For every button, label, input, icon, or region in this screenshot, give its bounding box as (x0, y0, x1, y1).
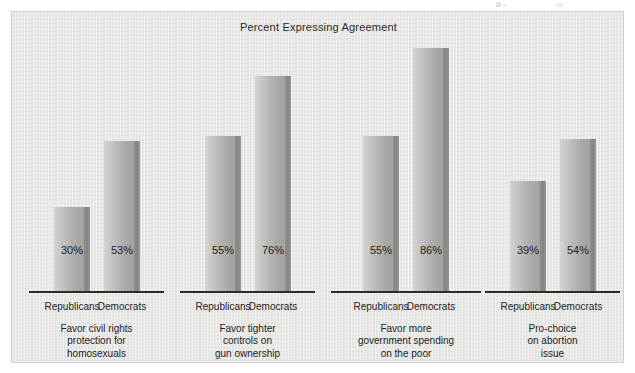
group-caption-line: homosexuals (29, 348, 164, 361)
bar-shadow-edge (285, 76, 291, 292)
group-caption: Favor tightercontrols ongun ownership (180, 323, 315, 361)
bar-group: 55%Republicans86%DemocratsFavor moregove… (331, 12, 481, 364)
bar[interactable] (560, 139, 596, 292)
group-caption-line: on abortion (485, 335, 620, 348)
bar-shadow-edge (235, 136, 241, 292)
scan-artifact (503, 4, 506, 7)
bar-shadow-edge (134, 141, 140, 292)
bar-shadow-edge (540, 181, 546, 292)
bar-shadow-edge (590, 139, 596, 292)
bar-face (54, 207, 84, 292)
bar-face (205, 136, 235, 292)
bar[interactable] (413, 48, 449, 292)
bar[interactable] (510, 181, 546, 292)
x-axis-line (331, 291, 481, 293)
bar-shadow-edge (84, 207, 90, 292)
group-caption: Favor civil rightsprotection forhomosexu… (29, 323, 164, 361)
x-axis-tick-label: Democrats (399, 301, 463, 312)
bar-face (560, 139, 590, 292)
bar[interactable] (363, 136, 399, 292)
bar[interactable] (104, 141, 140, 292)
bar-group: 30%Republicans53%DemocratsFavor civil ri… (29, 12, 164, 364)
bar-group: 55%Republicans76%DemocratsFavor tighterc… (180, 12, 315, 364)
x-axis-line (180, 291, 315, 293)
x-axis-line (29, 291, 164, 293)
x-axis-tick-label: Democrats (241, 301, 305, 312)
chart-title: Percent Expressing Agreement (12, 21, 625, 33)
group-caption-line: Favor civil rights (29, 323, 164, 336)
bar-group: 39%Republicans54%DemocratsPro-choiceon a… (485, 12, 620, 364)
group-caption-line: Favor tighter (180, 323, 315, 336)
group-caption: Favor moregovernment spendingon the poor (331, 323, 481, 361)
bar-face (413, 48, 443, 292)
scan-artifact (556, 3, 563, 7)
group-caption-line: government spending (331, 335, 481, 348)
group-caption-line: issue (485, 348, 620, 361)
bar[interactable] (255, 76, 291, 292)
bar-face (255, 76, 285, 292)
bar[interactable] (54, 207, 90, 292)
x-axis-line (485, 291, 620, 293)
x-axis-tick-label: Democrats (90, 301, 154, 312)
group-caption: Pro-choiceon abortionissue (485, 323, 620, 361)
scan-artifact (496, 2, 501, 7)
group-caption-line: protection for (29, 335, 164, 348)
bar[interactable] (205, 136, 241, 292)
group-caption-line: Pro-choice (485, 323, 620, 336)
bar-shadow-edge (393, 136, 399, 292)
x-axis-tick-label: Democrats (546, 301, 610, 312)
bar-face (510, 181, 540, 292)
group-caption-line: on the poor (331, 348, 481, 361)
bar-shadow-edge (443, 48, 449, 292)
group-caption-line: gun ownership (180, 348, 315, 361)
group-caption-line: Favor more (331, 323, 481, 336)
bar-face (363, 136, 393, 292)
group-caption-line: controls on (180, 335, 315, 348)
plot-area: 30%Republicans53%DemocratsFavor civil ri… (12, 12, 625, 364)
bar-face (104, 141, 134, 292)
chart-panel: Percent Expressing Agreement 30%Republic… (11, 11, 624, 363)
chart-figure: Percent Expressing Agreement 30%Republic… (0, 0, 635, 373)
